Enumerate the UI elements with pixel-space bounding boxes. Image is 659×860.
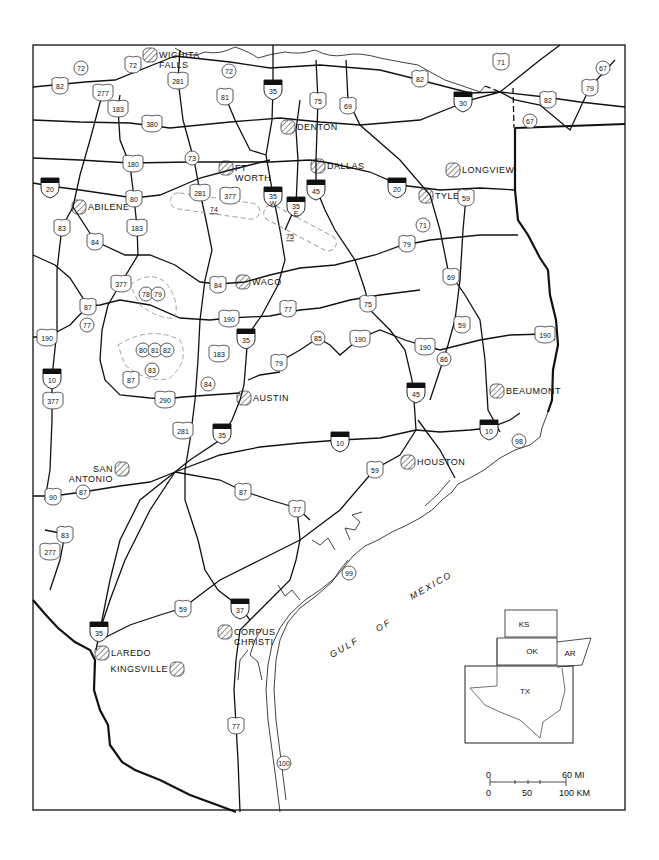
city-label: BEAUMONT	[506, 386, 561, 396]
city-ft: FTWORTH	[219, 161, 271, 183]
city-area-icon	[311, 159, 325, 173]
us-route-shield: 190	[350, 330, 370, 347]
us-route-number: 69	[447, 274, 455, 281]
state-route-number: 67	[599, 65, 607, 72]
interstate-shield: 10	[43, 369, 61, 389]
city-label: WACO	[252, 277, 282, 287]
city-label-line2: CHRISTI	[234, 637, 274, 647]
city-label: LAREDO	[111, 648, 151, 658]
us-route-shield: 377	[43, 392, 63, 409]
us-route-number: 281	[172, 78, 184, 85]
city-waco: WACO	[236, 275, 282, 289]
us-route-number: 75	[364, 301, 372, 308]
us-route-shield: 77	[289, 500, 305, 517]
us-route-number: 377	[115, 281, 127, 288]
us-route-number: 69	[344, 103, 352, 110]
city-area-icon	[72, 200, 86, 214]
state-route-number: 83	[148, 367, 156, 374]
us-route-shield: 380	[142, 115, 162, 132]
state-route-number: 86	[440, 356, 448, 363]
city-dallas: DALLAS	[311, 159, 365, 173]
city-laredo: LAREDO	[95, 646, 151, 660]
us-route-shield: 82	[52, 77, 68, 94]
us-route-shield: 190	[219, 310, 239, 327]
city-area-icon	[236, 275, 250, 289]
city-area-icon	[115, 462, 129, 476]
city-wichita: WICHITAFALLS	[143, 48, 200, 70]
us-route-shield: 75	[310, 92, 326, 109]
state-route-marker: 86	[437, 352, 451, 366]
us-route-number: 72	[129, 62, 137, 69]
us-route-shield: 77	[228, 717, 244, 734]
us-route-shield: 183	[209, 345, 229, 362]
interstate-suffix: E	[294, 210, 299, 217]
texas-highway-map: WICHITAFALLSDENTONDALLASFTWORTHABILENELO…	[0, 0, 659, 860]
us-route-number: 84	[214, 282, 222, 289]
state-route-marker: 72	[222, 64, 236, 78]
us-route-shield: 290	[155, 391, 175, 408]
city-san: SANANTONIO	[69, 462, 129, 484]
interstate-number: 20	[46, 186, 54, 193]
us-route-number: 71	[497, 59, 505, 66]
city-kingsville: KINGSVILLE	[110, 662, 184, 676]
city-denton: DENTON	[281, 120, 338, 134]
interstate-shield: 20	[41, 178, 59, 198]
us-route-shield: 377	[111, 275, 131, 292]
us-route-number: 277	[97, 90, 109, 97]
gulf-word-1: GULF	[328, 635, 361, 660]
city-label: AUSTIN	[253, 393, 289, 403]
city-label: SAN	[93, 464, 113, 474]
state-route-marker: 87	[76, 485, 90, 499]
interstate-shield: 45	[407, 383, 425, 403]
us-route-shield: 84	[87, 233, 103, 250]
interstate-suffix: W	[270, 200, 277, 207]
us-route-number: 79	[275, 360, 283, 367]
us-route-shield: 75	[360, 295, 376, 312]
interstate-shield: 35	[237, 329, 255, 349]
us-route-shield: 79	[582, 79, 598, 96]
state-route-marker: 71	[416, 218, 430, 232]
us-route-number: 81	[221, 94, 229, 101]
city-label: WICHITA	[159, 50, 200, 60]
us-route-number: 190	[419, 344, 431, 351]
us-route-number: 59	[371, 467, 379, 474]
us-route-shield: 59	[367, 461, 383, 478]
city-area-icon	[95, 646, 109, 660]
interstate-number: 30	[459, 100, 467, 107]
us-route-number: 90	[49, 494, 57, 501]
dashed-zone-label: 74	[210, 206, 218, 213]
us-route-shield: 72	[125, 56, 141, 73]
gulf-label: GULF OF MEXICO	[328, 569, 454, 659]
us-route-number: 87	[239, 489, 247, 496]
city-area-icon	[281, 120, 295, 134]
locator-inset: KS OK AR TX	[465, 610, 591, 743]
scale-km-zero: 0	[486, 788, 491, 798]
city-corpus: CORPUSCHRISTI	[218, 625, 276, 647]
state-route-marker: 72	[74, 61, 88, 75]
city-label: KINGSVILLE	[110, 664, 168, 674]
gulf-coastline	[238, 412, 548, 812]
us-route-shield: 77	[280, 300, 296, 317]
us-route-number: 87	[127, 377, 135, 384]
inset-label-tx: TX	[520, 687, 531, 696]
us-route-shield: 183	[127, 219, 147, 236]
city-label: LONGVIEW	[462, 165, 515, 175]
us-route-number: 87	[84, 304, 92, 311]
city-label: ABILENE	[88, 202, 130, 212]
interstate-shield: 30	[454, 92, 472, 112]
us-route-number: 77	[232, 723, 240, 730]
state-route-number: 67	[526, 118, 534, 125]
gulf-word-3: MEXICO	[408, 569, 454, 601]
us-route-shield: 190	[37, 329, 57, 346]
us-route-number: 190	[223, 316, 235, 323]
us-route-number: 79	[403, 241, 411, 248]
city-area-icon	[490, 384, 504, 398]
us-route-shield: 190	[415, 338, 435, 355]
us-route-number: 84	[91, 239, 99, 246]
us-route-shield: 87	[235, 483, 251, 500]
city-longview: LONGVIEW	[446, 163, 515, 177]
us-route-shield: 69	[443, 268, 459, 285]
city-label: DENTON	[297, 122, 338, 132]
us-route-number: 183	[131, 225, 143, 232]
us-route-shield: 79	[399, 235, 415, 252]
